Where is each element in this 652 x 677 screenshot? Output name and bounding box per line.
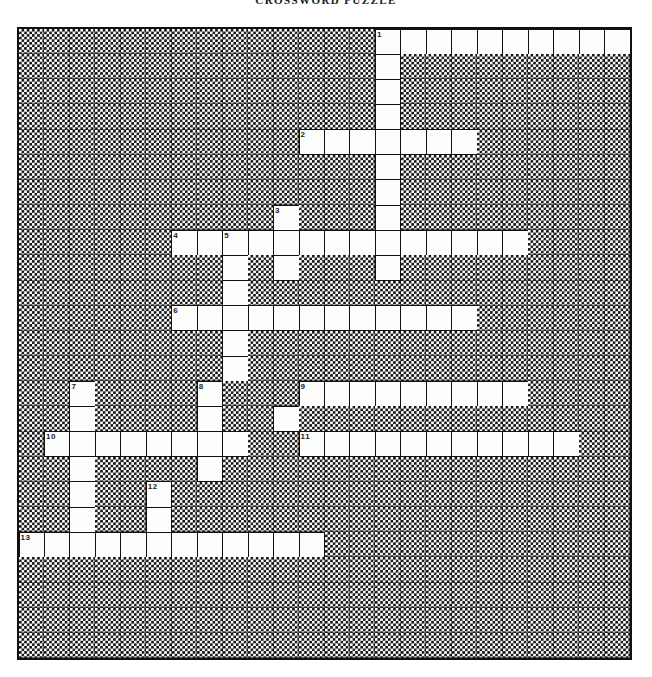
grid-cell-open[interactable]: [502, 431, 528, 457]
grid-cell-open[interactable]: [553, 431, 579, 457]
grid-cell-open[interactable]: [375, 230, 401, 256]
grid-cell-open[interactable]: [349, 431, 375, 457]
grid-cell-open[interactable]: 11: [299, 431, 325, 457]
grid-cell-open[interactable]: 6: [171, 305, 197, 331]
grid-cell-open[interactable]: 1: [375, 29, 401, 55]
grid-cell-open[interactable]: [426, 29, 452, 55]
grid-cell-open[interactable]: [273, 305, 299, 331]
grid-cell-open[interactable]: [477, 29, 503, 55]
grid-cell-open[interactable]: [502, 29, 528, 55]
grid-cell-open[interactable]: [426, 381, 452, 407]
grid-cell-open[interactable]: [248, 532, 274, 558]
grid-cell-open[interactable]: 13: [19, 532, 45, 558]
grid-cell-open[interactable]: [349, 129, 375, 155]
grid-cell-open[interactable]: [451, 431, 477, 457]
grid-cell-open[interactable]: [324, 305, 350, 331]
grid-cell-open[interactable]: [604, 29, 630, 55]
grid-cell-open[interactable]: [299, 230, 325, 256]
grid-cell-open[interactable]: [222, 431, 248, 457]
grid-cell-open[interactable]: [44, 532, 70, 558]
grid-cell-open[interactable]: [375, 381, 401, 407]
grid-cell-open[interactable]: [528, 431, 554, 457]
grid-cell-open[interactable]: [171, 431, 197, 457]
grid-cell-open[interactable]: [273, 532, 299, 558]
grid-cell-open[interactable]: [324, 230, 350, 256]
grid-cell-open[interactable]: [324, 431, 350, 457]
grid-cell-open[interactable]: [349, 230, 375, 256]
grid-cell-open[interactable]: 8: [197, 381, 223, 407]
grid-cell-open[interactable]: [375, 79, 401, 105]
grid-cell-open[interactable]: [400, 29, 426, 55]
grid-cell-open[interactable]: [69, 507, 95, 533]
grid-cell-open[interactable]: 12: [146, 481, 172, 507]
grid-cell-open[interactable]: [375, 255, 401, 281]
grid-cell-open[interactable]: [349, 305, 375, 331]
grid-cell-open[interactable]: [375, 54, 401, 80]
grid-cell-open[interactable]: [197, 456, 223, 482]
grid-cell-open[interactable]: [222, 330, 248, 356]
grid-cell-open[interactable]: [502, 381, 528, 407]
grid-cell-open[interactable]: 7: [69, 381, 95, 407]
grid-cell-open[interactable]: [222, 305, 248, 331]
grid-cell-open[interactable]: [426, 431, 452, 457]
grid-cell-open[interactable]: [197, 406, 223, 432]
grid-cell-open[interactable]: [146, 507, 172, 533]
grid-cell-open[interactable]: [451, 129, 477, 155]
grid-cell-open[interactable]: [69, 532, 95, 558]
grid-cell-open[interactable]: [375, 179, 401, 205]
grid-cell-open[interactable]: [400, 431, 426, 457]
grid-cell-open[interactable]: [375, 305, 401, 331]
grid-cell-open[interactable]: [69, 406, 95, 432]
grid-cell-open[interactable]: [146, 431, 172, 457]
grid-cell-open[interactable]: [375, 154, 401, 180]
grid-cell-open[interactable]: [273, 406, 299, 432]
grid-cell-open[interactable]: [400, 129, 426, 155]
grid-cell-open[interactable]: [197, 532, 223, 558]
grid-cell-open[interactable]: 2: [299, 129, 325, 155]
grid-cell-open[interactable]: [451, 381, 477, 407]
grid-cell-open[interactable]: [400, 230, 426, 256]
grid-cell-open[interactable]: [120, 431, 146, 457]
grid-cell-open[interactable]: [120, 532, 146, 558]
grid-cell-open[interactable]: [299, 532, 325, 558]
grid-cell-open[interactable]: [349, 381, 375, 407]
grid-cell-open[interactable]: [375, 129, 401, 155]
grid-cell-open[interactable]: [146, 532, 172, 558]
grid-cell-open[interactable]: [324, 381, 350, 407]
grid-cell-open[interactable]: [69, 431, 95, 457]
grid-cell-open[interactable]: [197, 431, 223, 457]
grid-cell-open[interactable]: [222, 356, 248, 382]
grid-cell-open[interactable]: [477, 431, 503, 457]
grid-cell-open[interactable]: [95, 431, 121, 457]
grid-cell-open[interactable]: [248, 230, 274, 256]
grid-cell-open[interactable]: [197, 305, 223, 331]
grid-cell-open[interactable]: [375, 431, 401, 457]
grid-cell-open[interactable]: 5: [222, 230, 248, 256]
grid-cell-open[interactable]: [299, 305, 325, 331]
grid-cell-open[interactable]: [222, 532, 248, 558]
grid-cell-open[interactable]: [69, 456, 95, 482]
grid-cell-open[interactable]: [273, 255, 299, 281]
grid-cell-open[interactable]: [95, 532, 121, 558]
grid-cell-open[interactable]: [451, 29, 477, 55]
grid-cell-open[interactable]: 3: [273, 205, 299, 231]
grid-cell-open[interactable]: [222, 255, 248, 281]
grid-cell-open[interactable]: 9: [299, 381, 325, 407]
grid-cell-open[interactable]: [197, 230, 223, 256]
grid-cell-open[interactable]: [451, 230, 477, 256]
grid-cell-open[interactable]: [375, 205, 401, 231]
grid-cell-open[interactable]: [451, 305, 477, 331]
grid-cell-open[interactable]: [502, 230, 528, 256]
grid-cell-open[interactable]: 10: [44, 431, 70, 457]
grid-cell-open[interactable]: [426, 230, 452, 256]
grid-cell-open[interactable]: [477, 230, 503, 256]
grid-cell-open[interactable]: [426, 129, 452, 155]
grid-cell-open[interactable]: [248, 305, 274, 331]
grid-cell-open[interactable]: [400, 305, 426, 331]
grid-cell-open[interactable]: [426, 305, 452, 331]
grid-cell-open[interactable]: [273, 230, 299, 256]
grid-cell-open[interactable]: [222, 280, 248, 306]
grid-cell-open[interactable]: [528, 29, 554, 55]
grid-cell-open[interactable]: [375, 104, 401, 130]
grid-cell-open[interactable]: 4: [171, 230, 197, 256]
